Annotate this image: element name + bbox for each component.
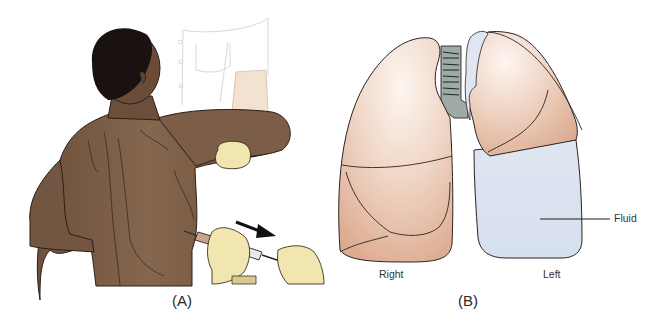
left-lung-upper-lobe [467,32,577,156]
panel-a-thoracentesis-procedure: (A) [0,0,330,323]
clinician-forearm [232,70,268,112]
left-lung-fluid-region [474,140,582,258]
gloved-hand-syringe-2 [277,246,324,284]
gloved-hand-stabilizing [216,141,251,168]
label-left-lung: Left [543,268,561,280]
panel-b-lung-diagram: Fluid Right Left (B) [330,0,654,323]
thoracentesis-illustration [0,0,330,323]
label-fluid: Fluid [614,212,637,224]
gloved-cuff [232,276,256,284]
right-lung [339,38,453,262]
label-right-lung: Right [379,268,404,280]
gloved-hand-syringe-1 [208,228,250,284]
panel-a-caption: (A) [172,292,192,309]
panel-b-caption: (B) [458,292,478,309]
